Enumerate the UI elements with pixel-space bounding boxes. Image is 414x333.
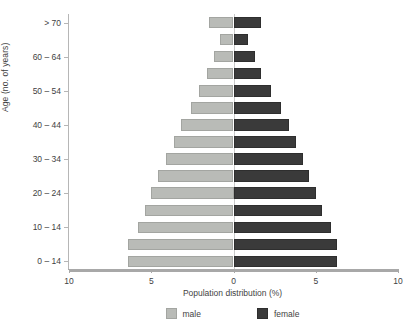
bar-female bbox=[234, 136, 297, 148]
bar-female bbox=[234, 170, 310, 182]
bar-row bbox=[69, 17, 397, 29]
bar-row bbox=[69, 170, 397, 182]
bar-female bbox=[234, 119, 290, 131]
bar-female bbox=[234, 102, 282, 114]
bar-female bbox=[234, 51, 255, 63]
y-axis-title: Age (no. of years) bbox=[0, 96, 10, 112]
population-pyramid-chart: Age (no. of years) > 7060 – 6450 – 5440 … bbox=[0, 0, 414, 333]
bar-female bbox=[234, 205, 323, 217]
legend-swatch-male-icon bbox=[166, 308, 177, 319]
bar-female bbox=[234, 256, 338, 268]
x-axis-tick-label: 5 bbox=[149, 276, 154, 286]
y-axis-tick-label: 50 – 54 bbox=[33, 86, 61, 96]
bar-female bbox=[234, 187, 316, 199]
x-axis-tick-label: 10 bbox=[393, 276, 402, 286]
bar-female bbox=[234, 239, 338, 251]
x-axis-tick bbox=[398, 269, 399, 273]
y-axis-tick-label: 30 – 34 bbox=[33, 154, 61, 164]
bar-male bbox=[158, 170, 234, 182]
y-axis-tick-label: 10 – 14 bbox=[33, 222, 61, 232]
bar-male bbox=[220, 34, 233, 46]
y-axis-tick bbox=[64, 57, 69, 58]
y-axis-tick bbox=[64, 159, 69, 160]
bar-row bbox=[69, 187, 397, 199]
bar-female bbox=[234, 34, 249, 46]
bar-row bbox=[69, 34, 397, 46]
bar-row bbox=[69, 119, 397, 131]
x-axis-tick-label: 10 bbox=[64, 276, 73, 286]
bar-female bbox=[234, 153, 303, 165]
x-axis-tick bbox=[151, 269, 152, 273]
x-axis-title: Population distribution (%) bbox=[68, 288, 397, 298]
y-axis-tick bbox=[64, 227, 69, 228]
bar-row bbox=[69, 136, 397, 148]
bars-layer bbox=[69, 14, 397, 269]
x-axis-tick-label: 5 bbox=[313, 276, 318, 286]
bar-row bbox=[69, 68, 397, 80]
bar-row bbox=[69, 153, 397, 165]
y-axis-tick-label: 0 – 14 bbox=[37, 256, 61, 266]
y-axis-tick-label: 20 – 24 bbox=[33, 188, 61, 198]
bar-row bbox=[69, 102, 397, 114]
bar-row bbox=[69, 51, 397, 63]
x-axis-tick bbox=[316, 269, 317, 273]
bar-male bbox=[191, 102, 234, 114]
y-axis-tick-label: > 70 bbox=[44, 18, 61, 28]
bar-male bbox=[128, 256, 233, 268]
bar-female bbox=[234, 222, 331, 234]
y-axis-tick-label: 40 – 44 bbox=[33, 120, 61, 130]
bar-male bbox=[145, 205, 234, 217]
bar-male bbox=[181, 119, 234, 131]
legend-item-female: female bbox=[257, 308, 300, 319]
chart-legend: male female bbox=[68, 308, 397, 319]
legend-swatch-female-icon bbox=[257, 308, 268, 319]
bar-male bbox=[151, 187, 233, 199]
bar-row bbox=[69, 256, 397, 268]
bar-male bbox=[166, 153, 233, 165]
bar-row bbox=[69, 205, 397, 217]
x-axis-tick bbox=[69, 269, 70, 273]
legend-item-male: male bbox=[166, 308, 201, 319]
bar-male bbox=[174, 136, 233, 148]
bar-row bbox=[69, 222, 397, 234]
bar-male bbox=[128, 239, 233, 251]
x-axis-tick bbox=[234, 269, 235, 273]
bar-male bbox=[199, 85, 234, 97]
y-axis-tick bbox=[64, 91, 69, 92]
bar-male bbox=[207, 68, 233, 80]
y-axis-tick bbox=[64, 261, 69, 262]
y-axis-tick-label: 60 – 64 bbox=[33, 52, 61, 62]
bar-male bbox=[214, 51, 234, 63]
bar-male bbox=[138, 222, 233, 234]
x-axis-tick-label: 0 bbox=[231, 276, 236, 286]
plot-area: > 7060 – 6450 – 5440 – 4430 – 3420 – 241… bbox=[68, 14, 397, 270]
y-axis-tick bbox=[64, 23, 69, 24]
bar-row bbox=[69, 85, 397, 97]
legend-label-female: female bbox=[274, 309, 300, 319]
bar-row bbox=[69, 239, 397, 251]
y-axis-tick bbox=[64, 125, 69, 126]
bar-female bbox=[234, 85, 272, 97]
y-axis-tick bbox=[64, 193, 69, 194]
bar-male bbox=[209, 17, 234, 29]
legend-label-male: male bbox=[183, 309, 201, 319]
bar-female bbox=[234, 17, 262, 29]
bar-female bbox=[234, 68, 262, 80]
